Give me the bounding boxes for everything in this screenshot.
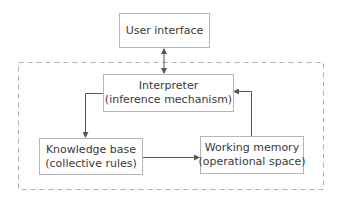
node-sublabel: (collective rules) xyxy=(45,157,136,171)
node-label: Interpreter xyxy=(139,79,198,93)
node-label: Knowledge base xyxy=(46,143,136,157)
node-user-interface: User interface xyxy=(119,13,210,48)
node-label: User interface xyxy=(126,24,204,38)
edge-working-memory-interpreter xyxy=(234,92,252,137)
node-label: Working memory xyxy=(205,141,299,155)
node-interpreter: Interpreter (inference mechanism) xyxy=(103,74,234,112)
node-knowledge-base: Knowledge base (collective rules) xyxy=(39,138,143,175)
node-sublabel: (operational space) xyxy=(199,155,306,169)
edge-interpreter-knowledge-base xyxy=(86,94,104,138)
node-sublabel: (inference mechanism) xyxy=(105,93,232,107)
node-working-memory: Working memory (operational space) xyxy=(200,136,304,174)
